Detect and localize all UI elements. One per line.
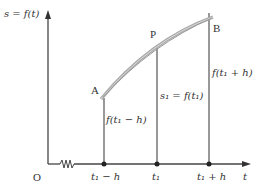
axis-break-icon	[60, 160, 74, 168]
x-axis-arrow-icon	[242, 161, 251, 167]
tick-label-t1-plus-h: t₁ + h	[197, 172, 226, 182]
y-axis-label: s = f(t)	[4, 9, 39, 19]
x-axis-label: t	[243, 172, 247, 182]
tick-dot-t1	[155, 162, 160, 167]
y-axis-arrow-icon	[45, 10, 51, 19]
derivative-secant-diagram: s = f(t) O t A P B f(t₁ − h) s₁ = f(t₁) …	[0, 0, 263, 189]
tick-dot-t1-minus-h	[102, 162, 107, 167]
middle-value-label: s₁ = f(t₁)	[160, 91, 203, 101]
tick-label-t1: t₁	[152, 172, 160, 182]
diagram-graphics	[0, 0, 263, 189]
point-p-label: P	[150, 29, 156, 40]
origin-label: O	[33, 172, 41, 183]
tick-label-t1-minus-h: t₁ − h	[91, 172, 120, 182]
tick-dot-t1-plus-h	[207, 162, 212, 167]
right-value-label: f(t₁ + h)	[212, 68, 253, 78]
point-a-label: A	[91, 85, 99, 96]
point-b-label: B	[213, 23, 220, 34]
left-value-label: f(t₁ − h)	[106, 115, 147, 125]
